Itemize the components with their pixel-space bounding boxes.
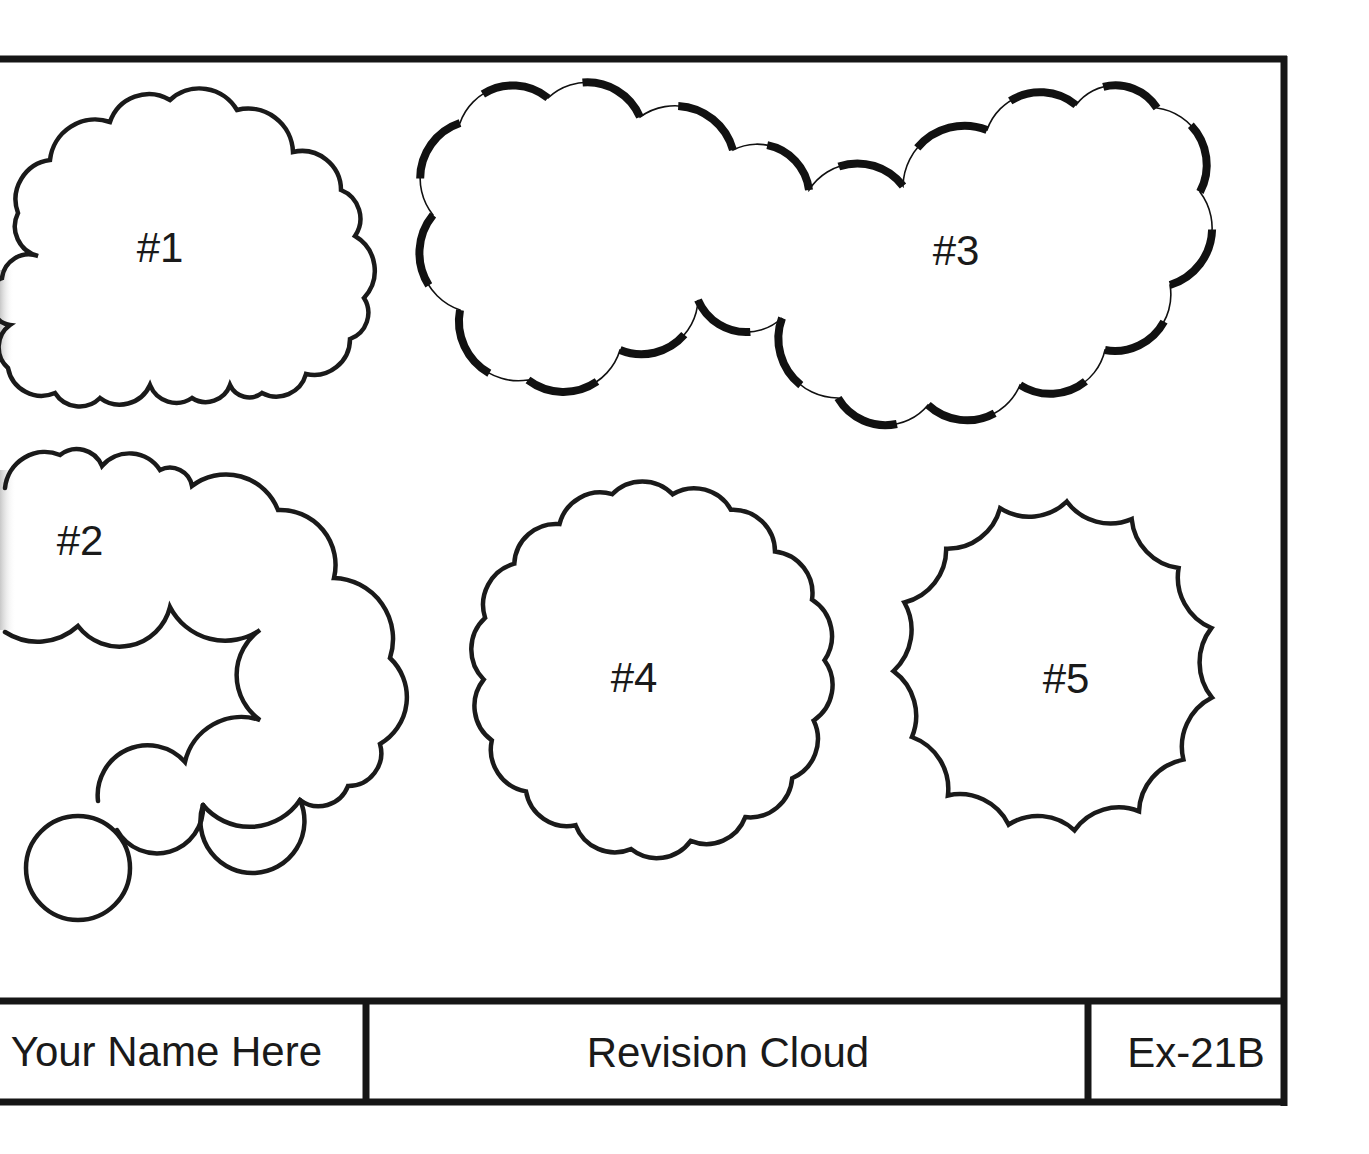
cloud-label-5: #5 <box>1043 655 1090 702</box>
revision-cloud-3-calligraphy <box>419 82 1212 425</box>
title-block-name-field: Your Name Here <box>11 1028 322 1075</box>
title-block: Your Name Here Revision Cloud Ex-21B <box>11 1028 1265 1076</box>
cloud-label-1: #1 <box>137 224 184 271</box>
cloud-label-4: #4 <box>611 654 658 701</box>
drawing-sheet: #1 #2 #3 #4 #5 Your Name Here Revision C… <box>0 0 1369 1154</box>
cloud-label-3: #3 <box>933 227 980 274</box>
scan-edge-shadow <box>0 270 14 360</box>
scan-edge-shadow <box>0 470 16 630</box>
revision-cloud-1 <box>0 88 375 406</box>
cloud-label-2: #2 <box>57 517 104 564</box>
title-block-sheet-id: Ex-21B <box>1127 1029 1265 1076</box>
title-block-title-field: Revision Cloud <box>587 1029 869 1076</box>
drawing-border <box>0 56 1287 1106</box>
